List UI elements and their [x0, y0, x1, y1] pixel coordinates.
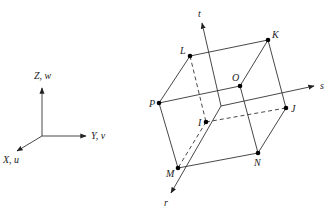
isoparametric-cube-diagram: Z, w Y, v X, u t s r — [0, 0, 333, 213]
vertex-P — [157, 101, 162, 106]
vertex-label-J: J — [291, 103, 296, 114]
edge-J-N — [258, 108, 286, 153]
vertex-label-O: O — [232, 72, 239, 83]
edge-P-O — [159, 86, 240, 103]
cube-vertices: L K O P J I N M — [148, 29, 296, 179]
t-axis-label: t — [198, 8, 201, 19]
s-axis — [221, 86, 314, 106]
edge-O-N — [240, 86, 258, 153]
cube-visible-edges — [159, 40, 286, 168]
vertex-label-I: I — [197, 117, 202, 128]
global-axes: Z, w Y, v X, u — [2, 70, 106, 165]
vertex-label-N: N — [253, 157, 262, 168]
vertex-label-P: P — [148, 98, 155, 109]
edge-L-I — [190, 56, 206, 122]
local-axes: t s r — [164, 8, 324, 208]
vertex-O — [238, 84, 243, 89]
y-axis-label: Y, v — [91, 130, 106, 141]
edge-I-M — [178, 122, 206, 168]
x-axis — [17, 136, 42, 151]
r-axis — [171, 106, 221, 193]
edge-L-P — [159, 56, 190, 103]
vertex-J — [284, 106, 289, 111]
vertex-L — [188, 54, 193, 59]
vertex-N — [256, 151, 261, 156]
r-axis-label: r — [164, 197, 168, 208]
vertex-K — [266, 38, 271, 43]
x-axis-label: X, u — [2, 154, 19, 165]
vertex-label-L: L — [179, 45, 186, 56]
edge-I-J — [206, 108, 286, 122]
edge-K-J — [268, 40, 286, 108]
edge-K-O — [240, 40, 268, 86]
vertex-M — [176, 166, 181, 171]
z-axis-label: Z, w — [34, 70, 52, 81]
vertex-I — [204, 120, 209, 125]
vertex-label-K: K — [271, 29, 280, 40]
edge-L-K — [190, 40, 268, 56]
vertex-label-M: M — [165, 168, 175, 179]
s-axis-label: s — [320, 80, 324, 91]
edge-P-M — [159, 103, 178, 168]
